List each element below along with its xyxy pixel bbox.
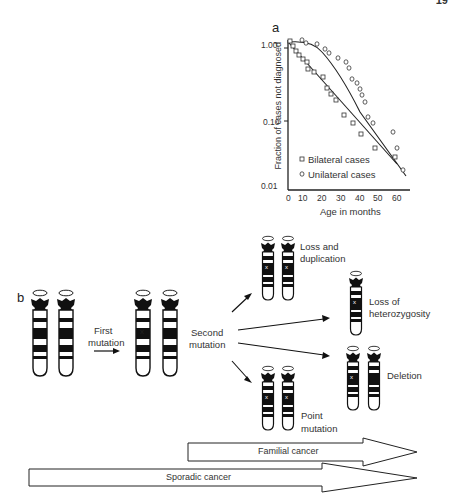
- svg-text:x: x: [265, 394, 268, 400]
- point-mutation-label-line2: mutation: [301, 423, 337, 434]
- svg-text:x: x: [285, 264, 288, 270]
- loh-label-line1: Loss of: [369, 296, 400, 307]
- loss-duplication-label-line1: Loss and: [300, 241, 339, 252]
- first-mutation-label-line2: mutation: [88, 337, 124, 348]
- svg-text:x: x: [353, 299, 356, 305]
- svg-text:x: x: [285, 394, 288, 400]
- first-mutation-label-line1: First: [94, 325, 112, 336]
- loh-label-line2: heterozygosity: [369, 308, 430, 319]
- second-mutation-label-line1: Second: [191, 327, 223, 338]
- second-mutation-label-line2: mutation: [189, 339, 225, 350]
- point-mutation-label-line1: Point: [301, 410, 323, 421]
- svg-text:x: x: [265, 264, 268, 270]
- svg-text:x: x: [140, 327, 144, 336]
- chromosome-diagram: x x x x x x x: [0, 0, 454, 503]
- deletion-label: Deletion: [387, 370, 422, 381]
- familial-cancer-label: Familial cancer: [258, 446, 319, 457]
- loss-duplication-label-line2: duplication: [300, 253, 345, 264]
- sporadic-cancer-label: Sporadic cancer: [166, 472, 231, 483]
- svg-text:x: x: [350, 374, 353, 380]
